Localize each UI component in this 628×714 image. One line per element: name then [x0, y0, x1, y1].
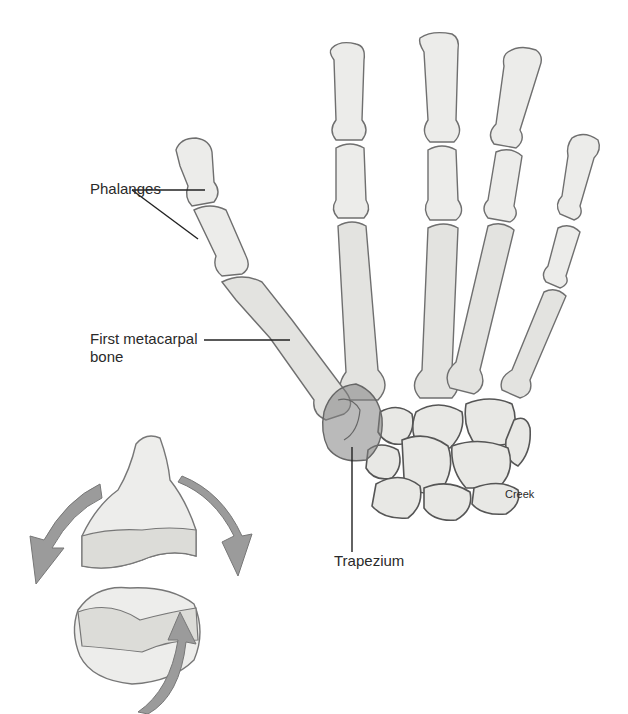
saddle-joint-schematic [30, 436, 252, 714]
artist-signature: Creek [505, 485, 534, 503]
index-finger [330, 43, 385, 400]
label-first-metacarpal: First metacarpal [90, 330, 198, 348]
middle-finger [414, 33, 461, 398]
label-trapezium: Trapezium [334, 552, 404, 570]
label-phalanges: Phalanges [90, 180, 161, 198]
thumb [176, 138, 351, 420]
label-first-metacarpal-line2: bone [90, 348, 123, 366]
